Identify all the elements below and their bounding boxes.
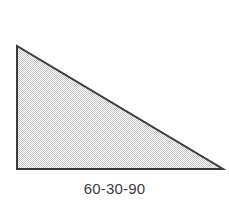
- triangle-shape: [17, 46, 223, 169]
- geometry-figure: 60-30-90: [0, 0, 229, 201]
- triangle-diagram: [0, 0, 229, 201]
- figure-caption: 60-30-90: [0, 180, 229, 197]
